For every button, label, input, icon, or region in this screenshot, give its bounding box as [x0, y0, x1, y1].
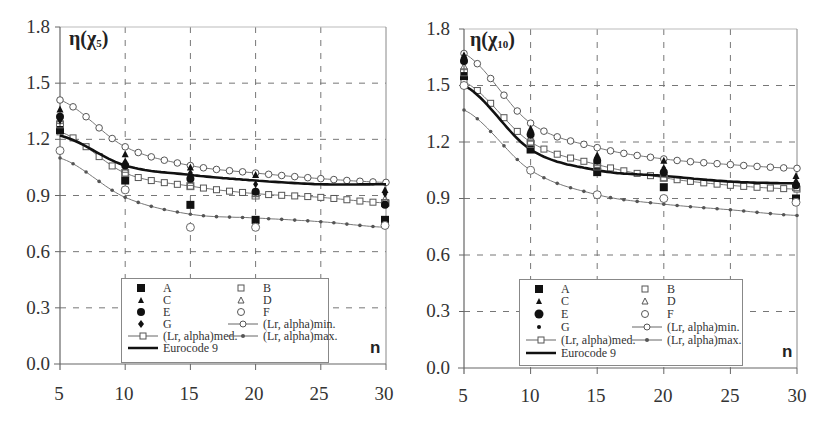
x-tick: 10 [510, 385, 550, 407]
legend-item-f: F [630, 308, 674, 320]
legend-item-min: (Lr, alpha)min. [630, 321, 740, 333]
x-tick: 30 [364, 383, 404, 405]
x-tick: 15 [169, 383, 209, 405]
open-square-icon [226, 282, 260, 294]
y-tick: 1.5 [410, 74, 450, 96]
y-tick: 0.3 [410, 300, 450, 322]
open-triangle-icon [226, 294, 260, 306]
legend-item-e: E [524, 308, 568, 320]
legend-item-med: (Lr, alpha)med. [524, 334, 635, 346]
y-tick: 1.8 [10, 16, 50, 38]
open-circle-icon [226, 306, 260, 318]
chart-eta-chi10: η(χ10) n 1.8 1.5 1.2 0.9 0.6 0.3 0.0 5 1… [410, 0, 820, 422]
y-tick: 0.9 [10, 185, 50, 207]
filled-diamond-icon [126, 318, 160, 330]
x-tick: 5 [443, 385, 483, 407]
diamond-line-icon [226, 330, 260, 342]
x-tick: 5 [39, 383, 79, 405]
y-tick: 0.0 [10, 353, 50, 375]
filled-circle-icon [126, 306, 160, 318]
y-tick: 1.2 [10, 128, 50, 150]
thick-line-icon [126, 342, 160, 354]
y-tick: 1.8 [410, 18, 450, 40]
filled-diamond-icon [524, 321, 558, 333]
legend-item-max: (Lr, alpha)max. [630, 334, 741, 346]
legend-item-c: C [524, 295, 569, 307]
chart-title: η(χ5) [69, 27, 108, 50]
filled-triangle-icon [126, 294, 160, 306]
square-line-icon [524, 334, 558, 346]
x-tick: 20 [643, 385, 683, 407]
filled-circle-icon [524, 308, 558, 320]
legend: A B C D E F G (Lr, alpha)min. (Lr, alpha… [519, 279, 743, 366]
open-triangle-icon [630, 295, 664, 307]
legend: A B C D E F G (Lr, alpha)min. (Lr, alpha… [121, 278, 329, 363]
x-axis-label: n [782, 342, 792, 362]
x-tick: 15 [576, 385, 616, 407]
x-tick: 10 [104, 383, 144, 405]
x-tick: 30 [777, 385, 817, 407]
x-axis-label: n [370, 338, 380, 358]
thick-line-icon [524, 347, 558, 359]
square-line-icon [126, 330, 160, 342]
y-tick: 0.9 [410, 187, 450, 209]
x-tick: 20 [234, 383, 274, 405]
y-tick: 0.0 [410, 357, 450, 379]
y-tick: 0.3 [10, 297, 50, 319]
legend-item-max: (Lr, alpha)max. [226, 330, 337, 342]
y-tick: 0.6 [410, 244, 450, 266]
x-tick: 25 [299, 383, 339, 405]
diamond-line-icon [630, 334, 664, 346]
x-tick: 25 [710, 385, 750, 407]
circle-line-icon [630, 321, 664, 333]
open-square-icon [630, 283, 664, 295]
legend-item-g: G [524, 321, 570, 333]
y-tick: 1.2 [410, 131, 450, 153]
legend-item-eurocode: Eurocode 9 [524, 347, 616, 359]
y-tick: 0.6 [10, 241, 50, 263]
filled-square-icon [524, 283, 558, 295]
filled-square-icon [126, 282, 160, 294]
filled-triangle-icon [524, 295, 558, 307]
chart-eta-chi5: η(χ5) n 1.8 1.5 1.2 0.9 0.6 0.3 0.0 5 10… [0, 0, 410, 422]
legend-item-eurocode: Eurocode 9 [126, 342, 218, 354]
chart-title: η(χ10) [470, 28, 515, 51]
open-circle-icon [630, 308, 664, 320]
legend-item-d: D [630, 295, 676, 307]
y-tick: 1.5 [10, 72, 50, 94]
